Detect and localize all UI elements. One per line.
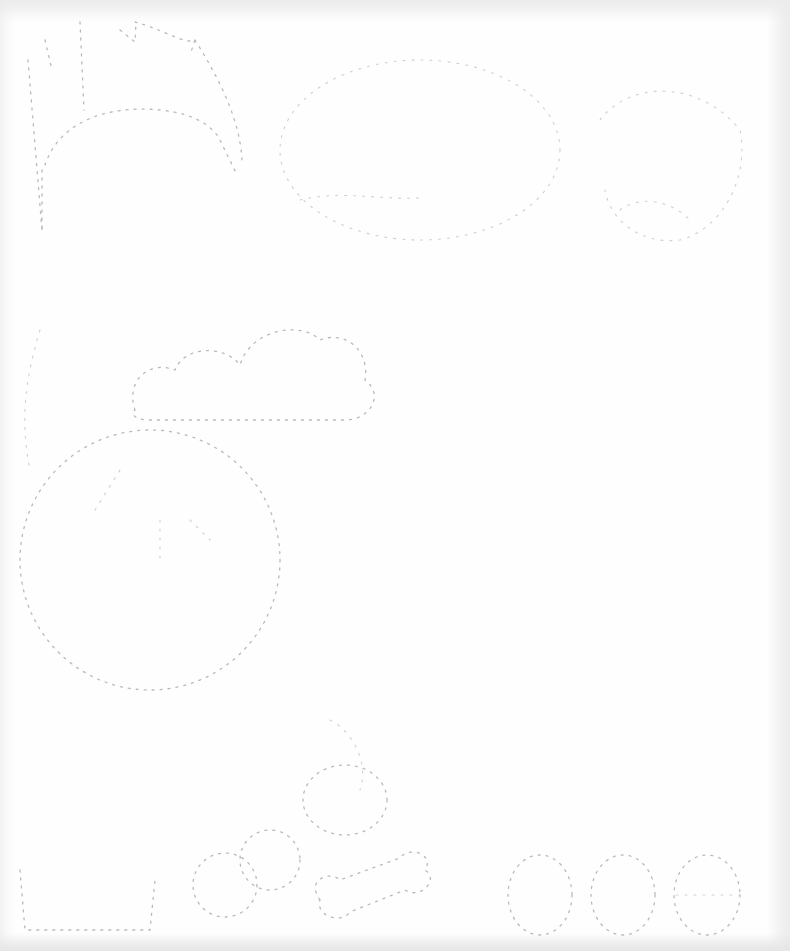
small-circle-pair — [193, 830, 300, 917]
ovals-row — [508, 855, 740, 935]
crown-hat-outline — [28, 22, 242, 232]
bone-outline — [315, 852, 430, 918]
face-outline-top-right — [600, 91, 742, 240]
balloon-outline — [303, 720, 387, 835]
large-oval-top — [280, 60, 560, 240]
tracing-worksheet — [0, 0, 790, 951]
cloud-outline — [133, 330, 375, 420]
dotted-drawing — [0, 0, 790, 951]
large-circle-face — [20, 330, 280, 690]
sock-outline — [20, 870, 155, 930]
